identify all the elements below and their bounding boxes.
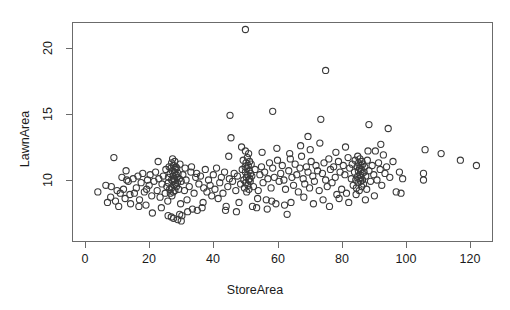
x-tick-label-80: 80 <box>322 252 362 266</box>
data-point <box>298 153 304 159</box>
data-point <box>387 174 393 180</box>
y-tick-label-10: 10 <box>41 168 55 192</box>
data-point <box>319 170 325 176</box>
x-tick-100 <box>406 242 407 248</box>
x-tick-0 <box>85 242 86 248</box>
data-point <box>262 169 268 175</box>
y-tick-15 <box>66 114 72 115</box>
data-point <box>282 186 288 192</box>
data-point <box>290 182 296 188</box>
data-point <box>396 169 402 175</box>
data-point <box>310 201 316 207</box>
data-point <box>274 145 280 151</box>
data-point <box>286 168 292 174</box>
data-point <box>136 197 142 203</box>
data-point <box>297 165 303 171</box>
data-point <box>366 121 372 127</box>
data-point <box>380 152 386 158</box>
data-point <box>209 193 215 199</box>
data-point <box>270 108 276 114</box>
data-point <box>184 197 190 203</box>
data-point <box>390 158 396 164</box>
data-point <box>202 166 208 172</box>
data-point <box>346 199 352 205</box>
data-point <box>372 148 378 154</box>
data-point <box>345 154 351 160</box>
data-point <box>317 140 323 146</box>
data-point <box>378 141 384 147</box>
data-point <box>140 170 146 176</box>
x-tick-label-20: 20 <box>129 252 169 266</box>
data-point <box>353 191 359 197</box>
data-point <box>274 157 280 163</box>
data-point <box>116 203 122 209</box>
data-point <box>371 193 377 199</box>
data-point <box>294 172 300 178</box>
data-point <box>268 185 274 191</box>
data-point <box>307 147 313 153</box>
data-point <box>333 149 339 155</box>
data-point <box>420 177 426 183</box>
data-point <box>385 125 391 131</box>
data-point <box>165 198 171 204</box>
y-tick-label-15: 15 <box>41 102 55 126</box>
data-point <box>238 144 244 150</box>
data-point <box>265 176 271 182</box>
data-point <box>320 197 326 203</box>
data-point <box>323 177 329 183</box>
data-point <box>108 194 114 200</box>
data-point <box>281 202 287 208</box>
data-point <box>154 187 160 193</box>
data-point <box>323 67 329 73</box>
data-point <box>367 178 373 184</box>
data-point <box>306 185 312 191</box>
data-point <box>438 151 444 157</box>
scatter-plot-figure: 0 20 40 60 80 100 120 10 15 20 StoreArea… <box>0 0 510 310</box>
data-point <box>254 205 260 211</box>
x-tick-label-120: 120 <box>450 252 490 266</box>
data-point <box>259 149 265 155</box>
data-point <box>473 162 479 168</box>
data-point <box>342 172 348 178</box>
data-point <box>284 211 290 217</box>
data-point <box>252 166 258 172</box>
data-point <box>215 195 221 201</box>
x-tick-40 <box>213 242 214 248</box>
data-point <box>298 143 304 149</box>
data-point <box>149 193 155 199</box>
data-point <box>362 197 368 203</box>
x-tick-label-100: 100 <box>386 252 426 266</box>
data-point <box>222 207 228 213</box>
data-point <box>270 165 276 171</box>
data-point <box>340 162 346 168</box>
data-point <box>249 203 255 209</box>
y-tick-10 <box>66 180 72 181</box>
data-point <box>212 186 218 192</box>
data-point <box>133 185 139 191</box>
data-point <box>369 162 375 168</box>
data-point <box>233 187 239 193</box>
x-tick-label-40: 40 <box>193 252 233 266</box>
data-point <box>374 177 380 183</box>
data-point <box>226 153 232 159</box>
y-tick-20 <box>66 48 72 49</box>
data-point <box>143 202 149 208</box>
data-point <box>326 203 332 209</box>
data-point <box>182 165 188 171</box>
data-point <box>364 186 370 192</box>
data-point <box>379 182 385 188</box>
data-point <box>233 209 239 215</box>
data-point <box>149 210 155 216</box>
data-point <box>123 168 129 174</box>
data-point <box>318 116 324 122</box>
data-point <box>326 156 332 162</box>
data-point <box>127 201 133 207</box>
x-tick-label-0: 0 <box>65 252 105 266</box>
data-point <box>288 199 294 205</box>
data-point <box>332 174 338 180</box>
data-point <box>295 189 301 195</box>
data-point <box>242 26 248 32</box>
x-tick-60 <box>278 242 279 248</box>
data-point <box>228 135 234 141</box>
data-point <box>420 170 426 176</box>
